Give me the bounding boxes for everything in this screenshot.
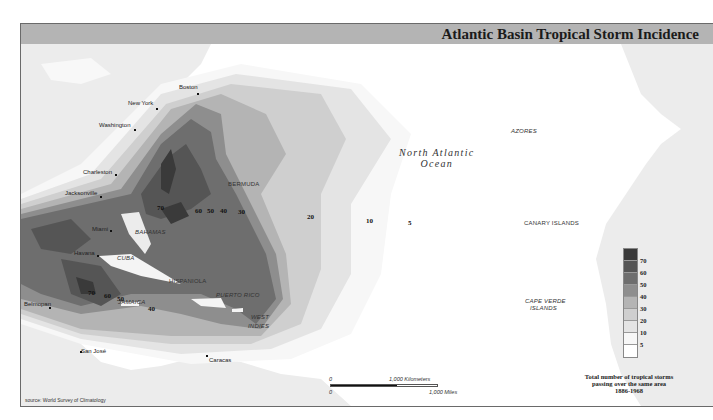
isoline-label: 40: [220, 207, 227, 215]
isoline-label: 70: [88, 289, 95, 297]
isoline-label: 40: [148, 305, 155, 313]
region-hispaniola: HISPANIOLA: [169, 278, 207, 284]
legend-label: 40: [640, 293, 647, 300]
city-dot: [49, 307, 51, 309]
legend-caption-line2: passing over the same area: [559, 380, 699, 387]
ocean-label: North Atlantic Ocean: [399, 147, 475, 169]
isoline-label: 20: [307, 213, 314, 221]
city-dot: [110, 230, 112, 232]
legend-label: 20: [640, 317, 647, 324]
legend-swatch: [624, 345, 637, 357]
city-washington: Washington: [99, 122, 130, 128]
legend-label: 5: [640, 341, 643, 348]
region-azores: AZORES: [511, 128, 537, 134]
region-canary-islands: CANARY ISLANDS: [524, 220, 579, 226]
isoline-label: 5: [408, 219, 412, 227]
legend-label: 70: [640, 257, 647, 264]
map-title: Atlantic Basin Tropical Storm Incidence: [441, 24, 699, 44]
legend-swatch: [624, 333, 637, 345]
city-dot: [156, 108, 158, 110]
city-dot: [80, 351, 82, 353]
city-belmopan: Belmopan: [24, 301, 51, 307]
isoline-label: 60: [104, 292, 111, 300]
isoline-label: 50: [117, 295, 124, 303]
scale-mi-zero: 0: [329, 389, 332, 395]
city-jacksonville: Jacksonville: [65, 190, 97, 196]
legend-swatch: [624, 273, 637, 285]
scale-km-label: 1,000 Kilometers: [389, 376, 430, 382]
legend-swatch: [624, 321, 637, 333]
legend-caption-line1: Total number of tropical storms: [559, 373, 699, 380]
ocean-line2: Ocean: [399, 158, 475, 169]
region-cape-verde: CAPE VERDE: [525, 298, 566, 304]
legend-label: 10: [640, 329, 647, 336]
legend-swatch: [624, 261, 637, 273]
city-dot: [206, 355, 208, 357]
city-san-jose: San José: [81, 348, 106, 354]
scale-km-zero: 0: [329, 376, 332, 382]
legend-swatch: [624, 249, 637, 261]
legend-color-bar: [623, 248, 638, 358]
isoline-label: 70: [157, 204, 164, 212]
region-puerto-rico: PUERTO RICO: [216, 292, 260, 298]
city-boston: Boston: [179, 84, 198, 90]
city-dot: [97, 255, 99, 257]
city-dot: [115, 174, 117, 176]
city-new-york: New York: [128, 100, 153, 106]
source-note: source: World Survey of Climatology: [25, 397, 106, 403]
storm-incidence-map: [21, 44, 713, 406]
isoline-label: 30: [238, 208, 245, 216]
region-west: WEST: [251, 314, 269, 320]
legend-caption-line3: 1886-1968: [559, 387, 699, 394]
city-miami: Miami: [92, 226, 108, 232]
city-dot: [134, 129, 136, 131]
isoline-label: 10: [366, 217, 373, 225]
map-frame: Atlantic Basin Tropical Storm Incidence …: [20, 23, 713, 407]
ocean-line1: North Atlantic: [399, 147, 475, 158]
legend-label: 30: [640, 305, 647, 312]
city-dot: [197, 93, 199, 95]
legend-swatch: [624, 309, 637, 321]
scale-mi-label: 1,000 Miles: [429, 389, 457, 395]
legend-swatch: [624, 297, 637, 309]
title-bar: Atlantic Basin Tropical Storm Incidence: [21, 24, 713, 45]
region-islands: ISLANDS: [530, 305, 557, 311]
region-bahamas: BAHAMAS: [135, 229, 166, 235]
isoline-label: 50: [207, 207, 214, 215]
city-dot: [100, 196, 102, 198]
city-caracas: Caracas: [209, 357, 231, 363]
city-havana: Havana: [74, 250, 95, 256]
city-charleston: Charleston: [83, 169, 112, 175]
region-cuba: CUBA: [117, 255, 134, 261]
legend-caption: Total number of tropical storms passing …: [559, 373, 699, 394]
legend-label: 60: [640, 269, 647, 276]
scale-mi-bar: [330, 384, 438, 387]
region-indies: INDIES: [248, 323, 269, 329]
legend-swatch: [624, 285, 637, 297]
region-bermuda: BERMUDA: [228, 181, 259, 187]
legend-label: 50: [640, 281, 647, 288]
isoline-label: 60: [195, 207, 202, 215]
